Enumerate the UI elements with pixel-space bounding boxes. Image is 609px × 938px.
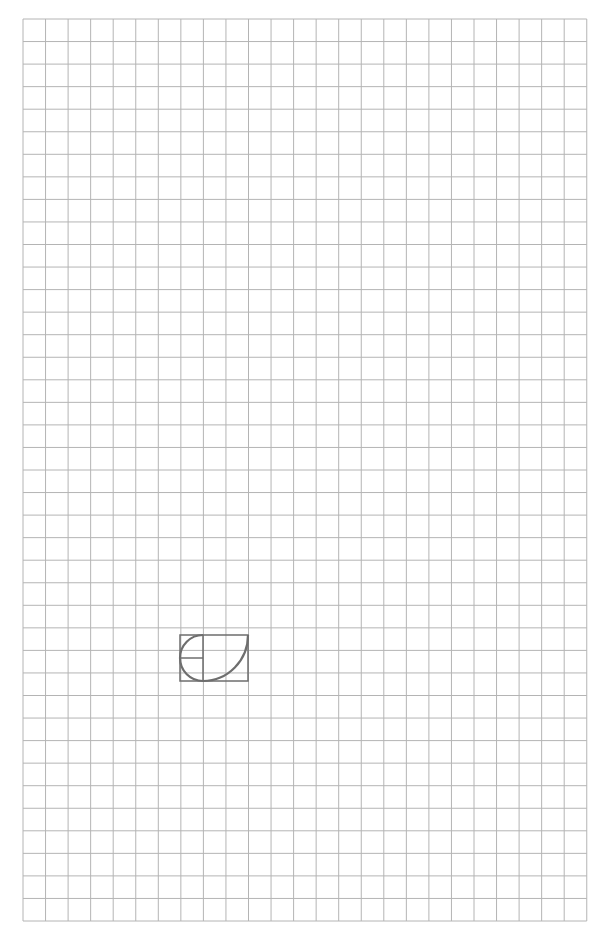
grid-paper (0, 0, 609, 938)
grid-lines (23, 19, 587, 921)
drawn-shape (180, 635, 248, 681)
